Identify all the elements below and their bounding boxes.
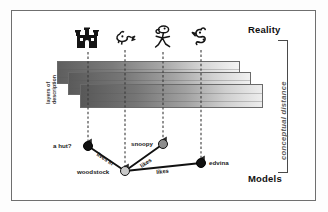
model-node-label-edvina: edvina [209, 159, 229, 166]
layers-of-description-label: layers of description [45, 75, 58, 104]
models-label: Models [248, 173, 282, 184]
model-node-snoopy[interactable] [158, 139, 168, 149]
model-node-label-woodstock: woodstock [77, 168, 109, 175]
reality-label: Reality [248, 24, 281, 35]
diagram-canvas: a hut? woodstock snoopy edvina lives in … [0, 0, 328, 212]
model-node-a-hut[interactable] [83, 141, 93, 151]
model-node-edvina[interactable] [196, 158, 206, 168]
model-node-woodstock[interactable] [120, 166, 130, 176]
model-node-label-snoopy: snoopy [131, 140, 153, 147]
conceptual-distance-label: conceptual distance [279, 81, 288, 160]
layers-label-line2: description [51, 75, 57, 104]
model-node-label-a-hut: a hut? [53, 142, 72, 149]
